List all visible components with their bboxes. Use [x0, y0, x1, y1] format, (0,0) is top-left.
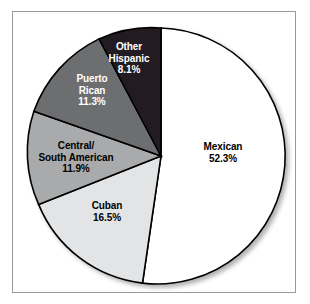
pie-slices-group — [27, 28, 285, 284]
pie-slice-mexican — [143, 28, 286, 284]
pie-chart-graphic — [0, 0, 310, 304]
pie-chart-figure: Mexican 52.3% Cuban 16.5% Central/ South… — [0, 0, 310, 304]
